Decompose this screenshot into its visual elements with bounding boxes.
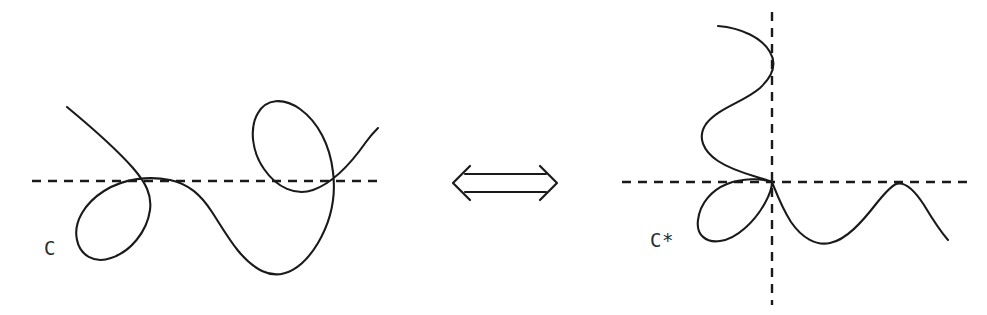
arrow-left-head — [453, 166, 470, 200]
iff-double-arrow — [453, 166, 557, 200]
figure-root: C C* — [0, 0, 987, 315]
arrow-right-head — [540, 166, 557, 200]
right-curve-label: C* — [650, 229, 674, 251]
figure-canvas: C C* — [0, 0, 987, 315]
left-panel: C — [32, 101, 378, 274]
left-curve-label: C — [44, 237, 56, 259]
right-panel: C* — [622, 12, 970, 305]
right-curve-C-star — [698, 26, 948, 244]
left-curve-C — [67, 101, 378, 274]
